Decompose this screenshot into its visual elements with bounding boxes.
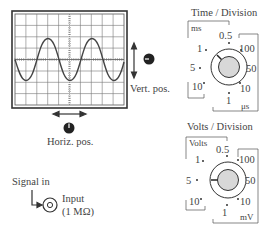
volts-tick-5v: 5: [186, 175, 191, 186]
horiz-pos-arrow-icon: [53, 112, 86, 117]
input-impedance-label: (1 MΩ): [62, 206, 95, 218]
oscilloscope-diagram: Vert. pos. Horiz. pos. Signal in Input (…: [0, 0, 272, 242]
input-label: Input: [62, 193, 84, 204]
volts-tick-0.5: 0.5: [216, 144, 229, 155]
time-tick-50us: 50: [246, 63, 257, 74]
vert-pos-knob[interactable]: [144, 54, 155, 65]
time-tick-10ms: 10: [192, 81, 203, 92]
time-division-knob[interactable]: [211, 49, 247, 85]
time-tick-5ms: 5: [190, 62, 195, 73]
time-tick-1ms: 1: [197, 43, 202, 54]
volts-unit-mv: mV: [240, 212, 254, 222]
input-connector-icon[interactable]: [43, 198, 57, 212]
signal-arrow-icon: [32, 190, 42, 208]
volts-tick-10mv: 10: [240, 196, 251, 207]
time-dial-title: Time / Division: [191, 7, 258, 18]
volts-tick-1mv: 1: [222, 207, 227, 218]
volts-dial-title: Volts / Division: [187, 121, 253, 132]
vert-pos-label: Vert. pos.: [130, 83, 170, 94]
time-division-dial: Time / Division ms μs 0.5 1 5 10 1 10 50…: [188, 7, 258, 111]
horiz-pos-label: Horiz. pos.: [47, 136, 93, 147]
volts-tick-10v: 10: [189, 196, 200, 207]
signal-in-label: Signal in: [12, 176, 50, 187]
time-unit-us: μs: [241, 101, 250, 111]
vert-pos-arrow-icon: [132, 43, 137, 78]
time-unit-ms: ms: [191, 23, 202, 33]
volts-division-dial: Volts / Division Volts mV 0.5 1 5 10 1 1…: [186, 121, 258, 223]
volts-division-knob[interactable]: [210, 162, 246, 198]
volts-tick-100mv: 100: [239, 154, 255, 165]
scope-screen: [12, 11, 127, 108]
volts-tick-50mv: 50: [245, 175, 256, 186]
time-tick-1us: 1: [226, 95, 231, 106]
time-tick-100us: 100: [239, 43, 255, 54]
volts-unit-volts: Volts: [189, 138, 208, 148]
horiz-pos-knob[interactable]: [64, 123, 75, 134]
volts-tick-1v: 1: [195, 154, 200, 165]
time-tick-0.5: 0.5: [219, 30, 232, 41]
time-tick-10us: 10: [240, 83, 251, 94]
